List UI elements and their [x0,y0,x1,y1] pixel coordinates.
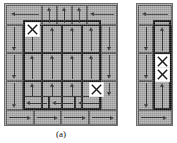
figure-caption: (a) [0,128,122,141]
magnetization-arrow-up [60,7,68,23]
magnetization-arrow-down [142,27,150,51]
magnetization-arrow-right [64,112,86,123]
magnetization-arrow-left [11,9,39,19]
defect-marker-top-left-x-icon [25,22,40,37]
magnetization-arrow-up [75,7,83,23]
magnetization-arrow-right [92,112,114,123]
right-panel-grain-map [136,3,173,126]
magnetization-arrow-up [158,83,166,108]
magnetization-arrow-up [28,83,36,96]
magnetization-arrow-up [68,27,76,51]
magnetization-arrow-up [48,55,56,79]
magnetization-arrow-down [105,55,113,79]
defect-marker-lower-x-icon [155,67,170,82]
magnetization-arrow-down [10,27,18,51]
magnetization-arrow-up [68,83,76,96]
magnetization-arrow-down [142,83,150,108]
magnetic-domain-figure: (a) [0,0,177,143]
magnetization-arrow-left [142,9,168,19]
defect-marker-bottom-right-x-icon [89,82,104,97]
magnetization-arrow-up [87,27,95,51]
panel-container [0,0,177,128]
magnetization-arrow-up [68,55,76,79]
magnetization-arrow-left [26,98,47,108]
magnetization-arrow-up [87,55,95,79]
magnetization-arrow-up [45,7,53,23]
magnetization-arrow-right [141,112,167,123]
magnetization-arrow-down [142,55,150,79]
magnetization-arrow-down [10,83,18,108]
magnetization-arrow-right [37,112,58,123]
magnetization-arrow-down [105,83,113,96]
magnetization-arrow-right [9,112,31,123]
magnetization-arrow-up [48,83,56,96]
magnetization-arrow-down [105,27,113,51]
magnetization-arrow-up [158,27,166,51]
left-panel-grain-map [4,3,118,126]
magnetization-arrow-left [90,9,114,19]
magnetization-arrow-left [78,98,99,108]
magnetization-arrow-up [48,27,56,51]
magnetization-arrow-up [28,55,36,79]
magnetization-arrow-down [10,55,18,79]
magnetization-arrow-left [52,98,73,108]
